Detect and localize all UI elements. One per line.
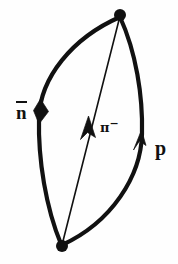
pion-label-base: π bbox=[100, 120, 110, 135]
antineutron-arrowhead bbox=[34, 99, 49, 124]
proton-label: p bbox=[155, 138, 166, 158]
top-vertex-dot bbox=[114, 9, 126, 21]
antineutron-label: n bbox=[16, 101, 27, 122]
proton-label-text: p bbox=[155, 137, 166, 159]
overbar-decoration bbox=[16, 101, 27, 103]
pion-label-charge: − bbox=[110, 117, 119, 130]
bottom-vertex-dot bbox=[56, 240, 68, 252]
pion-label: π− bbox=[100, 118, 118, 134]
antineutron-label-text: n bbox=[16, 102, 27, 123]
feynman-diagram-figure: n π− p bbox=[0, 0, 178, 264]
diagram-canvas bbox=[0, 0, 178, 264]
